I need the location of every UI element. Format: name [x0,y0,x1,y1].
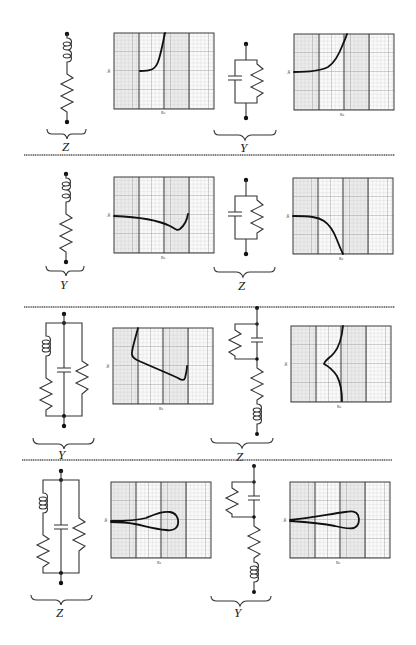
row-3: Y Im Re Z Im Re [33,306,391,464]
brace-icon [46,266,84,276]
svg-text:Im: Im [283,361,288,366]
figure-canvas: Z Im Re Y Im Re Y Im Re [0,0,416,645]
row-2: Y Im Re Z Im Re [46,172,393,293]
svg-text:Re: Re [157,560,162,565]
brace-icon [214,130,276,140]
svg-text:Im: Im [105,363,110,368]
svg-text:Re: Re [161,255,166,260]
network-label-y: Y [234,605,243,620]
plot-y-parallel-network: Im Re [105,328,213,411]
svg-text:Re: Re [339,256,344,261]
network-label-z: Z [56,605,64,620]
circuit-parallel-lrc [40,312,88,428]
svg-text:Re: Re [337,404,342,409]
network-label-z: Z [236,449,244,464]
circuit-series-rl [60,172,72,264]
brace-icon [211,438,273,448]
plot-z-series-rl: Im Re [106,33,214,115]
plot-z-teardrop: Im Re [103,482,211,565]
plot-y-parallel-rc: Im Re [286,34,394,117]
network-label-y: Y [240,140,249,155]
svg-text:Im: Im [286,69,291,74]
svg-text:Re: Re [159,406,164,411]
brace-icon [47,129,86,139]
svg-text:Im: Im [106,212,111,217]
circuit-parallel-rc [228,42,263,120]
plot-y-series-rl: Im Re [106,177,214,260]
svg-text:Re: Re [340,112,345,117]
network-label-y: Y [60,277,69,292]
circuit-parallel-lrc [37,469,85,585]
circuit-parallel-rc [228,178,263,256]
circuit-series-rc-r-l [226,464,260,594]
svg-text:Re: Re [336,560,341,565]
row-1: Z Im Re Y Im Re [47,32,394,155]
network-label-z: Z [62,139,70,154]
brace-icon [31,595,92,605]
plot-z-series-network: Im Re [283,326,391,409]
plot-y-teardrop: Im Re [282,482,390,565]
circuit-series-rc-r-l [229,306,263,436]
row-4: Z Im Re Y Im Re [31,464,390,620]
brace-icon [214,267,275,277]
svg-text:Im: Im [282,517,287,522]
network-label-z: Z [238,278,246,293]
svg-text:Im: Im [285,213,290,218]
plot-z-parallel-rc: Im Re [285,178,393,261]
circuit-series-rl [61,32,73,124]
svg-text:Im: Im [106,68,111,73]
svg-text:Re: Re [161,110,166,115]
svg-text:Im: Im [103,517,108,522]
